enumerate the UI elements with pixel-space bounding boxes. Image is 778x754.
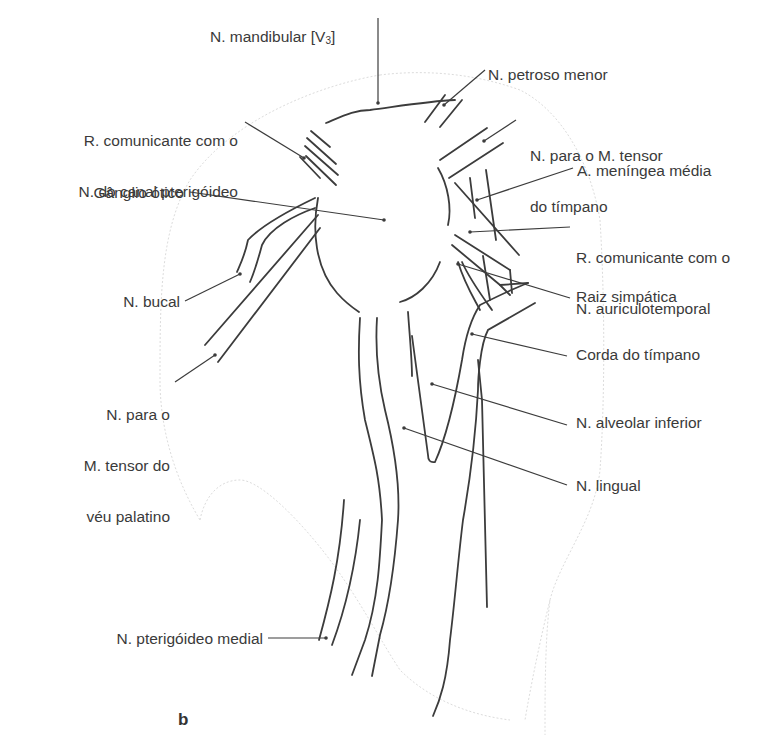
ganglion-right-edge bbox=[438, 168, 450, 225]
label-lingual-nerve: N. lingual bbox=[576, 477, 641, 494]
label-tensor-veli-palatini-nerve: N. para o M. tensor do véu palatino bbox=[30, 372, 170, 559]
label-line: N. para o bbox=[30, 406, 170, 423]
panel-letter: b bbox=[178, 710, 188, 730]
otic-ganglion-diagram: N. mandibular [V3] N. petroso menor R. c… bbox=[0, 0, 778, 754]
nerves bbox=[205, 95, 535, 716]
label-buccal-nerve: N. bucal bbox=[70, 293, 180, 310]
label-mandibular-bracket: ] bbox=[331, 28, 335, 45]
label-sympathetic-root: Raiz simpática bbox=[576, 288, 677, 305]
mandibular-trunk bbox=[326, 100, 455, 123]
label-auriculotemporal-branch: R. comunicante com o N. auriculotemporal bbox=[576, 215, 730, 351]
label-line: do tímpano bbox=[530, 198, 663, 215]
label-inferior-alveolar-nerve: N. alveolar inferior bbox=[576, 414, 702, 431]
label-line: M. tensor do bbox=[30, 457, 170, 474]
label-pterygoid-canal-branch: R. comunicante com o N. do canal pterigó… bbox=[48, 98, 238, 234]
label-line: R. comunicante com o bbox=[48, 132, 238, 149]
label-middle-meningeal-artery: A. meníngea média bbox=[577, 162, 711, 179]
label-mandibular-text: N. mandibular [V bbox=[210, 28, 325, 45]
label-mandibular-nerve: N. mandibular [V3] bbox=[210, 28, 335, 49]
label-medial-pterygoid-nerve: N. pterigóideo medial bbox=[80, 630, 263, 647]
label-lesser-petrosal-nerve: N. petroso menor bbox=[488, 66, 608, 83]
ganglion-lower-edge bbox=[400, 262, 440, 302]
label-line: R. comunicante com o bbox=[576, 249, 730, 266]
label-line: véu palatino bbox=[30, 508, 170, 525]
label-chorda-tympani: Corda do tímpano bbox=[576, 346, 700, 363]
label-otic-ganglion: Gânglio ótico bbox=[72, 184, 184, 201]
